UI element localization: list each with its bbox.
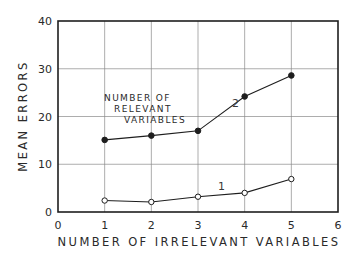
filled-circle-marker	[289, 73, 295, 79]
series-2-label: 2	[232, 97, 239, 110]
x-tick-label: 6	[335, 219, 342, 232]
y-tick-label: 0	[45, 206, 52, 219]
annotation-line-1: NUMBER OF	[104, 93, 171, 103]
x-tick-label: 5	[288, 219, 295, 232]
y-tick-label: 10	[38, 158, 52, 171]
y-axis-label: MEAN ERRORS	[16, 60, 30, 171]
line-chart: 010203040 0123456 MEAN ERRORS NUMBER OF …	[0, 0, 358, 256]
annotation-line-3: VARIABLES	[124, 115, 186, 125]
y-tick-label: 40	[38, 15, 52, 28]
x-tick-label: 0	[55, 219, 62, 232]
grid-lines	[58, 21, 338, 212]
filled-circle-marker	[149, 133, 155, 139]
x-tick-label: 1	[101, 219, 108, 232]
x-axis-ticks: 0123456	[55, 219, 342, 232]
open-circle-marker	[242, 190, 247, 195]
x-tick-label: 3	[195, 219, 202, 232]
open-circle-marker	[195, 194, 200, 199]
x-tick-label: 2	[148, 219, 155, 232]
x-tick-label: 4	[241, 219, 248, 232]
annotation-line-2: RELEVANT	[114, 104, 172, 114]
filled-circle-marker	[195, 128, 201, 134]
open-circle-marker	[289, 176, 294, 181]
open-circle-marker	[102, 198, 107, 203]
filled-circle-marker	[242, 94, 248, 100]
y-tick-label: 20	[38, 111, 52, 124]
y-axis-ticks: 010203040	[38, 15, 52, 219]
filled-circle-marker	[102, 137, 108, 143]
y-tick-label: 30	[38, 63, 52, 76]
open-circle-marker	[149, 199, 154, 204]
series-1-label: 1	[218, 180, 225, 193]
x-axis-label: NUMBER OF IRRELEVANT VARIABLES	[58, 235, 341, 249]
